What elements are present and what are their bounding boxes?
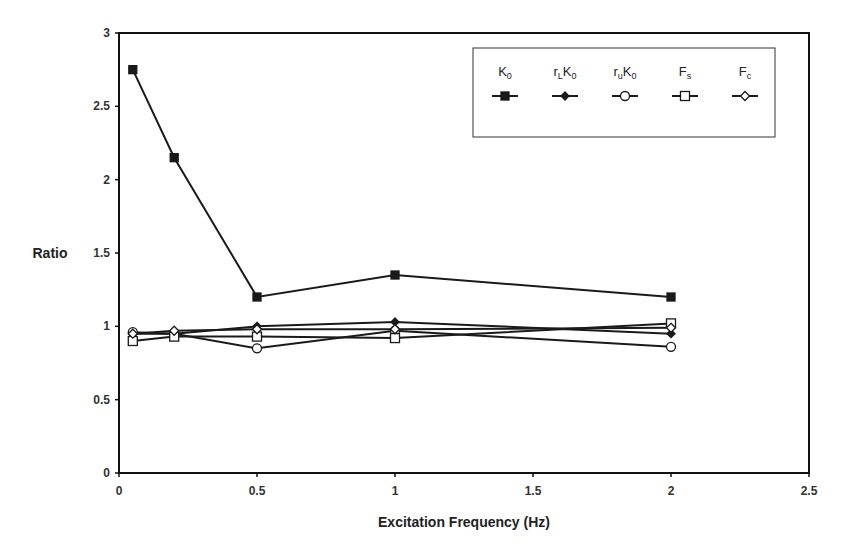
y-tick-label: 3 <box>103 26 110 40</box>
series-line <box>133 323 671 341</box>
x-axis-title: Excitation Frequency (Hz) <box>378 514 550 530</box>
y-tick-label: 1 <box>103 319 110 333</box>
legend-open-square-marker <box>681 92 690 101</box>
open-circle-marker <box>253 344 262 353</box>
filled-square-marker <box>253 293 261 301</box>
x-tick-label: 2.5 <box>801 484 818 498</box>
y-tick-label: 2 <box>103 173 110 187</box>
filled-square-marker <box>129 66 137 74</box>
y-tick-label: 0.5 <box>93 393 110 407</box>
y-axis: 00.511.522.53 <box>93 26 119 480</box>
legend-open-circle-marker <box>621 92 630 101</box>
x-tick-label: 2 <box>668 484 675 498</box>
legend: K0rLK0ruK0FsFc <box>473 48 775 137</box>
y-axis-title: Ratio <box>33 245 68 261</box>
line-chart: 00.511.522.53 00.511.522.5 K0rLK0ruK0FsF… <box>0 0 859 555</box>
series-line <box>133 331 671 349</box>
open-circle-marker <box>667 342 676 351</box>
y-tick-label: 0 <box>103 466 110 480</box>
x-tick-label: 0.5 <box>249 484 266 498</box>
filled-square-marker <box>391 271 399 279</box>
y-tick-label: 1.5 <box>93 246 110 260</box>
legend-filled-square-marker <box>501 92 509 100</box>
x-tick-label: 1 <box>392 484 399 498</box>
open-square-marker <box>391 334 400 343</box>
filled-square-marker <box>667 293 675 301</box>
x-axis: 00.511.522.5 <box>116 473 818 498</box>
x-tick-label: 1.5 <box>525 484 542 498</box>
y-tick-label: 2.5 <box>93 99 110 113</box>
x-tick-label: 0 <box>116 484 123 498</box>
filled-square-marker <box>170 154 178 162</box>
